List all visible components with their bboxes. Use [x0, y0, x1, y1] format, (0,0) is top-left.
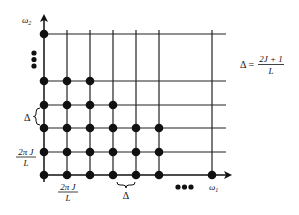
lattice-point: [155, 171, 164, 180]
lattice-point: [109, 148, 118, 157]
left-delta-label: Δ: [24, 112, 31, 123]
x-axis-label: ω1: [209, 182, 218, 193]
lattice-point: [86, 77, 95, 86]
lattice-diagram: ω2 ω1 Δ 2π J L 2π J L Δ Δ = 2J + 1 L: [0, 0, 299, 215]
lattice-point: [40, 124, 49, 133]
svg-text:L: L: [22, 158, 28, 168]
lattice-point: [40, 77, 49, 86]
lattice-point: [63, 77, 72, 86]
lattice-point: [86, 124, 95, 133]
svg-text:Δ =: Δ =: [240, 59, 254, 70]
lattice-point: [86, 101, 95, 110]
lattice-point: [208, 171, 217, 180]
lattice-point: [40, 171, 49, 180]
lattice-point: [132, 124, 141, 133]
lattice-point: [109, 124, 118, 133]
left-lattice-fraction: 2π J L: [16, 147, 36, 168]
svg-text:L: L: [64, 193, 70, 203]
svg-text:2π J: 2π J: [18, 147, 34, 157]
lattice-point: [109, 101, 118, 110]
lattice-point: [40, 30, 49, 39]
vertical-ellipsis-icon: [31, 50, 36, 68]
lattice-point: [86, 171, 95, 180]
lattice-point: [63, 171, 72, 180]
bottom-lattice-fraction: 2π J L: [58, 182, 78, 203]
lattice-point: [132, 148, 141, 157]
left-brace-icon: [34, 108, 41, 125]
lattice-point: [155, 124, 164, 133]
lattice-point: [132, 171, 141, 180]
svg-text:2π J: 2π J: [60, 182, 76, 192]
svg-text:L: L: [267, 66, 273, 76]
y-axis-label: ω2: [22, 15, 31, 26]
lattice-point: [40, 148, 49, 157]
svg-text:2J + 1: 2J + 1: [259, 54, 283, 64]
lattice-point: [63, 101, 72, 110]
lattice-point: [109, 171, 118, 180]
lattice-point: [63, 148, 72, 157]
horizontal-ellipsis-icon: [175, 184, 193, 189]
bottom-brace-icon: [117, 182, 135, 188]
lattice-point: [155, 148, 164, 157]
bottom-delta-label: Δ: [123, 190, 130, 201]
delta-formula: Δ = 2J + 1 L: [240, 54, 284, 76]
lattice-point: [86, 148, 95, 157]
lattice-point: [63, 124, 72, 133]
lattice-point: [40, 101, 49, 110]
